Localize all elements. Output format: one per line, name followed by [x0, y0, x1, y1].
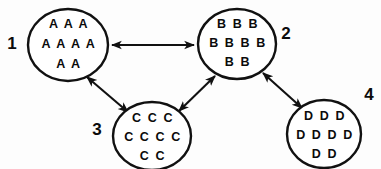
node-4-line-2: D D D D [296, 128, 354, 142]
node-3-line-2: C C C C [124, 130, 182, 144]
node-2-label: 2 [281, 24, 290, 43]
node-3[interactable]: C C C C C C C C C [113, 102, 191, 169]
node-2-line-1: B B B [217, 17, 259, 31]
edge-node1-node3[interactable] [87, 77, 128, 112]
node-3-line-3: C C [140, 149, 166, 163]
node-4-label: 4 [364, 85, 374, 104]
node-2-line-3: B B [225, 55, 251, 69]
node-2-line-2: B B B B [209, 36, 267, 50]
node-1-line-3: A A [56, 57, 81, 71]
node-1-line-2: A A A A [42, 37, 97, 51]
edge-node3-node2[interactable] [179, 76, 215, 111]
node-3-line-1: C C C [132, 111, 174, 125]
diagram-svg: A A A A A A A A A 1 B B B B B B B B B 2 … [0, 0, 381, 169]
node-3-label: 3 [92, 120, 101, 139]
node-1-line-1: A A A [49, 17, 89, 31]
node-4-line-3: D D [312, 147, 338, 161]
node-4[interactable]: D D D D D D D D D [287, 100, 361, 168]
edge-node2-node4[interactable] [263, 73, 302, 108]
diagram-canvas: A A A A A A A A A 1 B B B B B B B B B 2 … [0, 0, 381, 169]
node-2[interactable]: B B B B B B B B B [198, 9, 276, 79]
node-4-line-1: D D D [304, 109, 346, 123]
node-1[interactable]: A A A A A A A A A [28, 9, 108, 81]
node-1-label: 1 [7, 34, 16, 53]
